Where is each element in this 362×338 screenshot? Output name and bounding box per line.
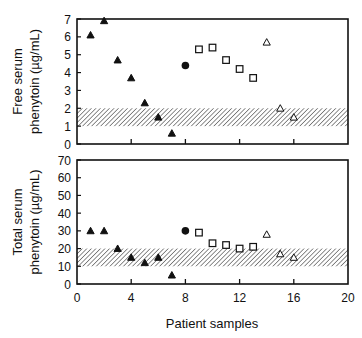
data-point-filled-triangle [101, 17, 108, 23]
data-point-open-square [250, 244, 257, 251]
bottom-panel-total-serum: 010203040506070048121620Total serumpheny… [10, 154, 355, 306]
y-tick-label: 0 [64, 278, 71, 292]
data-point-filled-triangle [87, 31, 94, 37]
data-point-open-triangle [263, 231, 270, 237]
data-point-open-square [236, 245, 243, 252]
data-point-open-square [209, 240, 216, 247]
y-axis-label: Free serum [10, 48, 25, 114]
data-point-filled-triangle [101, 227, 108, 233]
data-point-open-square [223, 242, 230, 249]
therapeutic-range-band [77, 108, 348, 126]
y-axis-label: phenytoin (µg/mL) [27, 29, 42, 134]
data-point-open-square [236, 66, 243, 73]
y-tick-label: 50 [58, 189, 72, 203]
data-point-open-square [209, 44, 216, 51]
x-tick-label: 20 [341, 291, 355, 305]
y-tick-label: 60 [58, 171, 72, 185]
data-point-filled-triangle [87, 227, 94, 233]
data-point-filled-circle [182, 227, 190, 235]
x-axis-label: Patient samples [166, 316, 259, 331]
data-point-open-square [223, 57, 230, 64]
x-tick-label: 4 [128, 291, 135, 305]
y-tick-label: 6 [64, 30, 71, 44]
data-point-filled-triangle [168, 272, 175, 278]
data-point-filled-circle [182, 62, 190, 70]
data-point-open-triangle [277, 105, 284, 111]
data-point-filled-triangle [168, 130, 175, 136]
data-point-open-square [250, 75, 257, 82]
y-tick-label: 20 [58, 242, 72, 256]
x-tick-label: 0 [74, 291, 81, 305]
y-tick-label: 0 [64, 138, 71, 152]
y-tick-label: 30 [58, 224, 72, 238]
y-axis-label: Total serum [10, 188, 25, 255]
y-tick-label: 2 [64, 102, 71, 116]
data-point-filled-triangle [141, 99, 148, 105]
y-tick-label: 70 [58, 154, 72, 168]
data-point-open-square [196, 46, 203, 53]
data-point-filled-triangle [114, 245, 121, 251]
data-point-filled-triangle [114, 56, 121, 62]
chart-canvas: 01234567Free serumphenytoin (µg/mL) 0102… [0, 0, 362, 338]
y-tick-label: 4 [64, 66, 71, 80]
phenytoin-scatter-figure: 01234567Free serumphenytoin (µg/mL) 0102… [0, 0, 362, 338]
x-tick-label: 12 [233, 291, 247, 305]
x-tick-label: 16 [287, 291, 301, 305]
data-point-filled-triangle [128, 74, 135, 80]
y-axis-label: phenytoin (µg/mL) [27, 169, 42, 274]
top-panel-free-serum: 01234567Free serumphenytoin (µg/mL) [10, 13, 348, 152]
y-tick-label: 10 [58, 260, 72, 274]
y-tick-label: 5 [64, 48, 71, 62]
y-tick-label: 7 [64, 13, 71, 27]
x-tick-label: 8 [182, 291, 189, 305]
data-point-open-square [196, 229, 203, 236]
y-tick-label: 40 [58, 207, 72, 221]
y-tick-label: 3 [64, 84, 71, 98]
y-tick-label: 1 [64, 120, 71, 134]
data-point-open-triangle [263, 39, 270, 45]
